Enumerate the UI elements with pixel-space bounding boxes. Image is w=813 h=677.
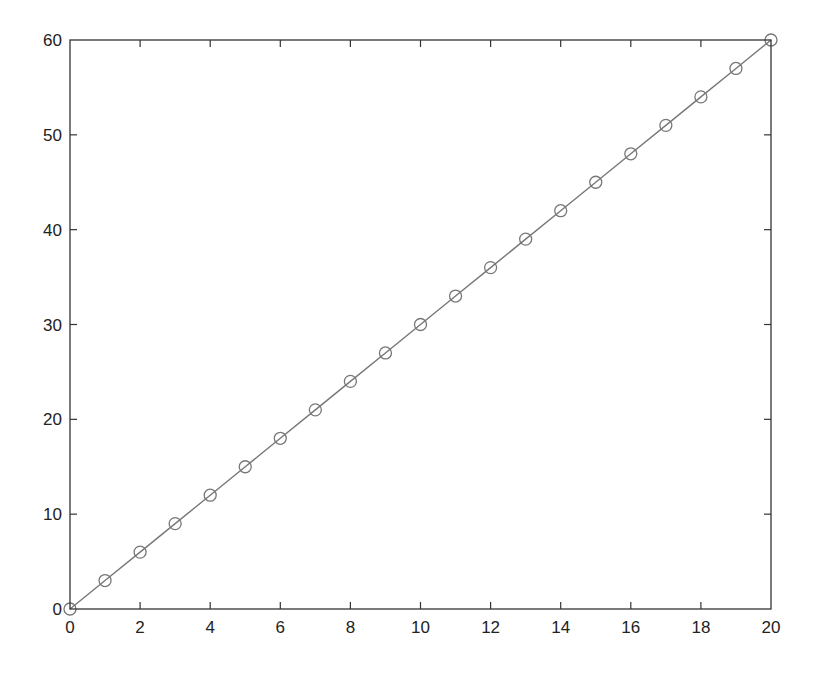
x-tick-label: 6 xyxy=(276,618,285,637)
x-tick-label: 10 xyxy=(411,618,430,637)
x-tick-label: 18 xyxy=(691,618,710,637)
x-tick-label: 20 xyxy=(762,618,781,637)
x-tick-label: 12 xyxy=(481,618,500,637)
x-tick-label: 4 xyxy=(205,618,214,637)
x-tick-label: 8 xyxy=(346,618,355,637)
series-line xyxy=(70,40,771,609)
y-tick-label: 10 xyxy=(43,505,62,524)
x-tick-label: 14 xyxy=(551,618,570,637)
y-tick-label: 20 xyxy=(43,410,62,429)
line-chart: 02468101214161820 0102030405060 xyxy=(0,0,813,677)
x-tick-label: 16 xyxy=(621,618,640,637)
series-line-y-equals-3x xyxy=(64,34,777,615)
y-tick-label: 30 xyxy=(43,316,62,335)
y-tick-label: 40 xyxy=(43,221,62,240)
y-tick-label: 60 xyxy=(43,31,62,50)
y-axis-ticks: 0102030405060 xyxy=(43,31,771,619)
y-tick-label: 50 xyxy=(43,126,62,145)
x-axis-ticks: 02468101214161820 xyxy=(65,40,780,637)
x-tick-label: 0 xyxy=(65,618,74,637)
x-tick-label: 2 xyxy=(135,618,144,637)
y-tick-label: 0 xyxy=(53,600,62,619)
